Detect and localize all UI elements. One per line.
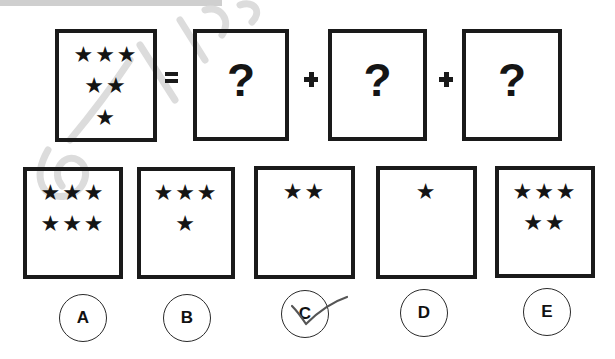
option-label-e[interactable]: E [523, 288, 571, 336]
option-box-a[interactable]: ★★★ ★★★ [23, 167, 123, 279]
star-row: ★ [59, 107, 153, 129]
star-row: ★ [380, 181, 473, 203]
option-box-c[interactable]: ★★ [254, 166, 355, 279]
star-row: ★★ [499, 212, 591, 234]
header-bar-fragment [0, 0, 222, 6]
star-row: ★★★ [141, 182, 231, 204]
star-row: ★★ [258, 181, 351, 203]
star-row: ★ [141, 213, 231, 235]
option-box-e[interactable]: ★★★ ★★ [495, 166, 595, 278]
unknown-box-1[interactable]: ? [193, 29, 289, 141]
star-row: ★★★ [499, 181, 591, 203]
star-row: ★★★ [59, 44, 153, 66]
star-row: ★★★ [27, 182, 119, 204]
option-box-d[interactable]: ★ [376, 166, 477, 279]
option-label-d[interactable]: D [400, 289, 448, 337]
unknown-box-3[interactable]: ? [462, 29, 562, 141]
given-star-box: ★★★ ★★ ★ [55, 29, 157, 142]
option-box-b[interactable]: ★★★ ★ [137, 167, 235, 279]
star-row: ★★ [59, 75, 153, 97]
option-label-a[interactable]: A [59, 294, 107, 342]
star-row: ★★★ [27, 213, 119, 235]
question-mark: ? [466, 57, 558, 103]
option-label-b[interactable]: B [163, 294, 211, 342]
question-mark: ? [197, 57, 285, 103]
question-mark: ? [332, 57, 423, 103]
option-label-c[interactable]: C [281, 290, 329, 338]
unknown-box-2[interactable]: ? [328, 29, 427, 141]
